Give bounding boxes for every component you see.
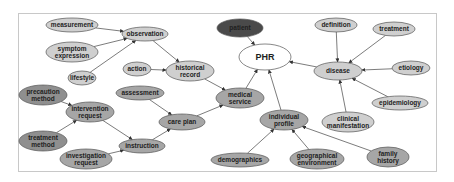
node-label: lifestyle	[70, 74, 95, 82]
node-label: instruction	[125, 142, 159, 149]
node-label: historical	[176, 64, 205, 71]
concept-map: measurementobservationsymptomexpressionl…	[0, 0, 454, 182]
node-label: PHR	[255, 52, 275, 62]
node-assessment: assessment	[116, 86, 164, 100]
node-demographics: demographics	[211, 153, 269, 167]
edge-epidemiology-to-disease	[352, 78, 388, 96]
edge-instruction-to-care-plan	[152, 129, 170, 140]
node-family-history: familyhistory	[367, 147, 409, 167]
node-label: treatment	[379, 25, 409, 32]
node-label: clinical	[337, 115, 359, 122]
edge-geographical-environment-to-individual-profile	[292, 129, 309, 149]
node-label: epidemiology	[379, 99, 421, 107]
node-observation: observation	[122, 27, 168, 41]
nodes-layer: measurementobservationsymptomexpressionl…	[19, 18, 430, 169]
edge-care-plan-to-medical-service	[197, 105, 223, 116]
node-label: service	[229, 98, 252, 105]
edge-medical-service-to-PHR	[246, 69, 258, 88]
node-treatment: treatment	[373, 22, 415, 36]
node-medical-service: medicalservice	[216, 88, 264, 108]
node-investigation-request: investigationrequest	[60, 149, 112, 169]
node-label: individual	[269, 113, 300, 120]
node-etiology: etiology	[392, 61, 430, 75]
node-label: method	[31, 95, 55, 102]
node-label: manifestation	[327, 122, 369, 129]
node-disease: disease	[314, 62, 362, 80]
node-label: request	[78, 112, 102, 120]
node-label: method	[31, 141, 55, 148]
edge-observation-to-historical-record	[153, 41, 179, 63]
node-label: disease	[326, 67, 350, 74]
edge-patient-to-PHR	[247, 37, 254, 46]
node-label: environment	[297, 159, 337, 166]
edge-precaution-method-to-intervention-request	[61, 102, 72, 106]
node-label: etiology	[399, 64, 424, 72]
edge-investigation-request-to-instruction	[108, 150, 123, 154]
node-label: action	[127, 65, 146, 72]
node-epidemiology: epidemiology	[372, 96, 428, 110]
edge-assessment-to-care-plan	[149, 99, 171, 114]
node-individual-profile: individualprofile	[260, 110, 308, 130]
edge-intervention-request-to-instruction	[103, 120, 132, 139]
edge-measurement-to-observation	[96, 28, 124, 31]
node-treatment-method: treatmentmethod	[19, 131, 67, 151]
edge-action-to-historical-record	[151, 70, 166, 71]
edge-treatment-method-to-intervention-request	[56, 120, 76, 132]
edge-definition-to-disease	[336, 32, 337, 62]
node-label: request	[74, 159, 98, 167]
node-clinical-manifestation: clinicalmanifestation	[322, 112, 374, 132]
node-care-plan: care plan	[159, 114, 205, 130]
edge-clinical-manifestation-to-disease	[340, 80, 346, 112]
node-precaution-method: precautionmethod	[19, 85, 67, 105]
node-label: history	[377, 157, 399, 165]
node-geographical-environment: geographicalenvironment	[290, 149, 344, 169]
node-action: action	[123, 62, 151, 76]
edge-symptom-expression-to-observation	[94, 38, 127, 46]
node-label: profile	[274, 120, 294, 128]
node-measurement: measurement	[46, 18, 98, 32]
node-intervention-request: interventionrequest	[66, 102, 114, 122]
node-historical-record: historicalrecord	[166, 61, 214, 81]
edge-demographics-to-individual-profile	[247, 129, 274, 153]
node-label: definition	[321, 21, 350, 28]
node-label: treatment	[28, 134, 58, 141]
edge-treatment-to-disease	[349, 35, 386, 63]
node-patient: patient	[217, 19, 263, 37]
node-instruction: instruction	[119, 139, 165, 153]
node-label: measurement	[51, 21, 94, 28]
edge-historical-record-to-medical-service	[205, 79, 226, 90]
node-lifestyle: lifestyle	[68, 71, 96, 85]
node-label: record	[180, 71, 200, 78]
node-definition: definition	[315, 18, 357, 32]
node-label: patient	[229, 24, 251, 32]
node-label: observation	[127, 30, 164, 37]
edge-disease-to-PHR	[289, 62, 316, 67]
node-label: medical	[228, 91, 252, 98]
node-label: demographics	[218, 156, 263, 164]
node-symptom-expression: symptomexpression	[46, 42, 98, 62]
node-label: care plan	[168, 118, 197, 126]
edge-etiology-to-disease	[362, 69, 392, 70]
node-phr: PHR	[239, 44, 291, 70]
node-label: intervention	[71, 105, 108, 112]
node-label: assessment	[121, 89, 159, 96]
edge-individual-profile-to-PHR	[269, 70, 281, 110]
node-label: expression	[55, 52, 89, 60]
